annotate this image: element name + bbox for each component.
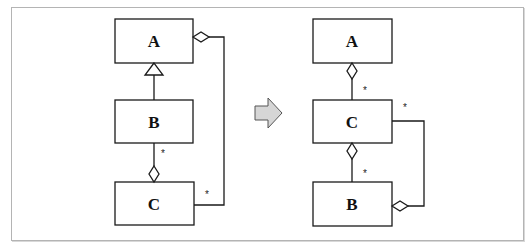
aggregation-diamond-icon xyxy=(392,201,408,211)
transform-arrow-icon xyxy=(255,98,282,128)
left-aggregation-ac-line xyxy=(194,37,224,205)
right-class-c-label: C xyxy=(346,113,358,132)
aggregation-diamond-icon xyxy=(193,32,209,42)
right-aggregation-bc-line xyxy=(392,121,424,206)
multiplicity-star: * xyxy=(205,189,209,200)
left-class-c-label: C xyxy=(148,195,160,214)
left-class-a-label: A xyxy=(148,32,161,51)
multiplicity-star: * xyxy=(363,85,367,96)
uml-diagram: A B C A C B * * * * * xyxy=(0,0,530,247)
generalization-triangle-icon xyxy=(145,63,163,75)
aggregation-diamond-icon xyxy=(347,143,357,159)
multiplicity-star: * xyxy=(363,168,367,179)
right-class-a-label: A xyxy=(346,32,359,51)
multiplicity-star: * xyxy=(403,102,407,113)
aggregation-diamond-icon xyxy=(149,166,159,182)
multiplicity-star: * xyxy=(161,148,165,159)
left-class-b-label: B xyxy=(148,113,159,132)
aggregation-diamond-icon xyxy=(347,63,357,79)
right-class-b-label: B xyxy=(346,195,357,214)
